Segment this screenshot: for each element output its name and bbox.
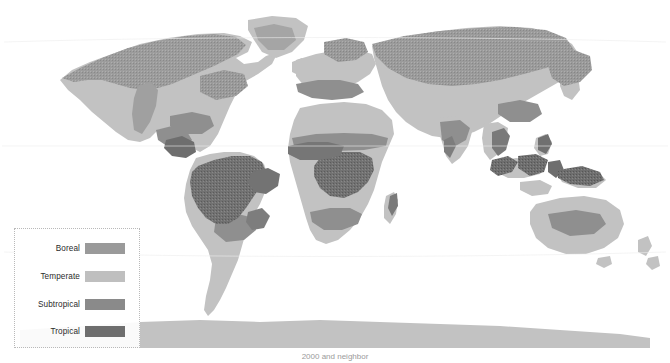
legend-label-subtropical: Subtropical: [15, 300, 85, 310]
legend-item-boreal: Boreal: [15, 240, 141, 257]
legend-item-tropical: Tropical: [15, 323, 141, 340]
figure-caption: 2000 and neighbor: [0, 352, 670, 361]
legend-swatch-subtropical: [85, 299, 125, 310]
legend-item-temperate: Temperate: [15, 268, 141, 285]
legend-swatch-tropical: [85, 326, 125, 337]
figure-root: Boreal Temperate Subtropical Tropical 20…: [0, 0, 670, 363]
legend-label-boreal: Boreal: [15, 244, 85, 254]
legend-swatch-boreal: [85, 243, 125, 254]
legend-label-tropical: Tropical: [15, 327, 85, 337]
legend-item-subtropical: Subtropical: [15, 296, 141, 313]
legend-label-temperate: Temperate: [15, 272, 85, 282]
map-legend: Boreal Temperate Subtropical Tropical: [14, 228, 140, 348]
legend-swatch-temperate: [85, 271, 125, 282]
